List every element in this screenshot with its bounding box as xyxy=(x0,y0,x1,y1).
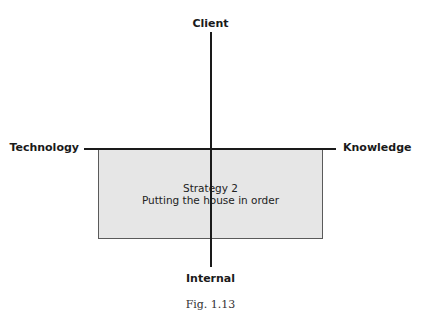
axis-label-top: Client xyxy=(0,17,421,30)
vertical-axis-line xyxy=(210,32,212,267)
axis-label-left: Technology xyxy=(9,141,79,154)
axis-label-bottom: Internal xyxy=(0,272,421,285)
axis-label-right: Knowledge xyxy=(343,141,412,154)
figure-caption: Fig. 1.13 xyxy=(0,298,421,311)
horizontal-axis-line xyxy=(84,148,336,150)
